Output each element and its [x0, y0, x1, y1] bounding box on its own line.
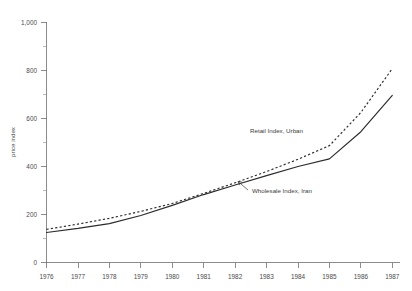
x-tick-label-1987: 1987: [385, 273, 400, 280]
chart-container: 1,000 800 600 400 200 0 price index 19: [0, 0, 412, 291]
annotation-retail-index-urban: Retail Index, Urban: [250, 127, 304, 134]
x-tick-label-1976: 1976: [39, 273, 54, 280]
x-tick-label-1981: 1981: [197, 273, 212, 280]
y-tick-label-200: 200: [26, 211, 37, 218]
x-tick-label-1985: 1985: [322, 273, 337, 280]
y-tick-label-0: 0: [33, 259, 37, 266]
y-tick-label-1000: 1,000: [21, 19, 37, 26]
x-tick-labels: 1976 1977 1978 1979 1980 1981 1982 1983 …: [39, 273, 399, 280]
x-tick-label-1980: 1980: [165, 273, 180, 280]
y-tick-label-400: 400: [26, 163, 37, 170]
y-tick-labels: 1,000 800 600 400 200 0: [21, 19, 37, 266]
x-tick-label-1982: 1982: [228, 273, 243, 280]
x-tick-label-1979: 1979: [134, 273, 149, 280]
y-tick-label-600: 600: [26, 115, 37, 122]
annotation-wholesale-index-iran: Wholesale Index, Iran: [238, 182, 312, 195]
y-tick-label-800: 800: [26, 67, 37, 74]
x-tick-label-1984: 1984: [291, 273, 306, 280]
x-tick-group: [47, 263, 393, 269]
y-tick-group: [41, 23, 47, 263]
x-tick-label-1977: 1977: [71, 273, 86, 280]
annotation-label-retail-index-urban: Retail Index, Urban: [250, 127, 304, 134]
line-chart: 1,000 800 600 400 200 0 price index 19: [0, 0, 412, 291]
x-tick-label-1986: 1986: [354, 273, 369, 280]
series-line-wholesale-index-iran: [47, 95, 393, 232]
axis-group: [47, 22, 401, 263]
x-tick-label-1983: 1983: [259, 273, 274, 280]
y-axis-title: price index: [9, 126, 16, 157]
annotation-label-wholesale-index-iran: Wholesale Index, Iran: [252, 187, 312, 194]
x-tick-label-1978: 1978: [102, 273, 117, 280]
